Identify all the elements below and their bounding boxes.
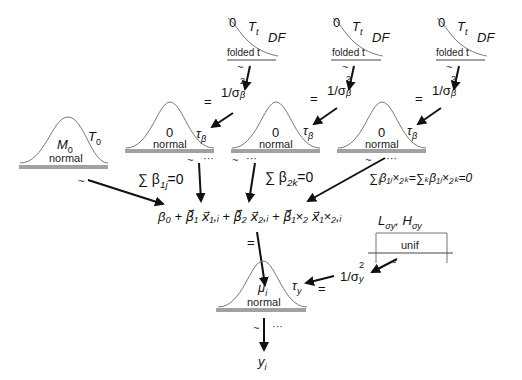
unif-name: unif	[401, 240, 419, 251]
ft2-scale: Tt	[352, 20, 362, 37]
arrow-prec1	[212, 113, 233, 127]
ft3-left: 0	[438, 16, 445, 29]
arrow-mu	[257, 232, 265, 285]
n2-dots: ···	[246, 153, 257, 164]
n2-name: normal	[259, 139, 293, 150]
prec2-target: τβ	[303, 124, 313, 141]
model-diagram: 0 Tt DF folded t ~ 0 Tt DF folded t ~ 0 …	[0, 0, 522, 380]
ft1-scale: Tt	[248, 20, 258, 37]
linear-predictor: β₀ + β⃗₁ x⃗₁,ᵢ + β⃗₂ x⃗₂,ᵢ + β⃗₁×₂ x⃗₁×₂…	[158, 210, 341, 223]
ft1-left: 0	[229, 16, 236, 29]
prec1-expr: 1/σ2β	[221, 86, 240, 99]
arrow-prec3	[418, 108, 441, 124]
n1-constraint: ∑ β1j=0	[138, 172, 184, 190]
likelihood-name: normal	[247, 297, 281, 308]
prec2-eq: =	[310, 92, 318, 105]
n3-constraint: ∑ⱼβ₁ⱼ×₂ₖ=∑ₖβ₁ⱼ×₂ₖ=0	[369, 172, 472, 184]
prec2-expr: 1/σ2β	[327, 84, 346, 97]
ft2-left: 0	[333, 16, 340, 29]
prec1-eq: =	[204, 95, 212, 108]
ft1-df: DF	[268, 31, 285, 44]
n0-precision: T0	[88, 130, 101, 147]
ft3-df: DF	[477, 31, 494, 44]
prec1-target: τβ	[196, 127, 206, 144]
arrow-n1	[199, 163, 201, 201]
prec3-target: τβ	[407, 124, 417, 141]
n3-name: normal	[365, 139, 399, 150]
noise-precision-eq: =	[318, 282, 326, 295]
ft2-tilde: ~	[342, 62, 348, 73]
prec3-expr: 1/σ2β	[432, 84, 451, 97]
arrow-prec2	[314, 108, 337, 124]
arrow-ft1	[245, 66, 250, 89]
n3-dots: ···	[386, 153, 397, 164]
likelihood-data: yi	[258, 355, 267, 372]
noise-precision-expr: 1/σ2y	[340, 270, 359, 283]
n1-tilde: ~	[187, 155, 193, 166]
n1-dots: ···	[203, 153, 214, 164]
arrow-n2	[249, 163, 255, 201]
unif-tilde: ~	[390, 257, 396, 268]
likelihood-dots: ···	[272, 321, 283, 332]
n3-tilde: ~	[365, 155, 371, 166]
prec3-eq: =	[415, 92, 423, 105]
ft3-tilde: ~	[446, 62, 452, 73]
ft1-name: folded t	[227, 48, 260, 58]
unif-params: Lσy, Hσy	[378, 214, 422, 231]
n2-constraint: ∑ β2k=0	[265, 170, 313, 188]
n2-tilde: ~	[232, 155, 238, 166]
ft3-scale: Tt	[457, 20, 467, 37]
n1-name: normal	[153, 139, 187, 150]
likelihood-tilde: ~	[253, 323, 259, 334]
noise-precision-target: τy	[292, 279, 301, 296]
ft2-name: folded t	[332, 48, 365, 58]
n0-name: normal	[49, 153, 83, 164]
linear-predictor-eq: =	[247, 236, 255, 249]
ft3-name: folded t	[436, 48, 469, 58]
ft1-tilde: ~	[237, 62, 243, 73]
n0-tilde: ~	[78, 176, 84, 187]
ft2-df: DF	[372, 31, 389, 44]
